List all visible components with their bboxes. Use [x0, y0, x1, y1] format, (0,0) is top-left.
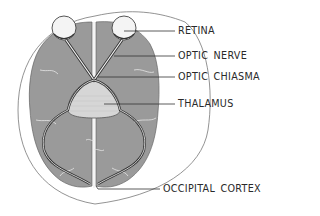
label-retina: RETINA: [178, 26, 215, 36]
left-eye: [52, 16, 76, 40]
label-optic-nerve: OPTIC NERVE: [178, 51, 247, 61]
label-thalamus: THALAMUS: [178, 99, 234, 109]
label-optic-chiasma: OPTIC CHIASMA: [178, 72, 260, 82]
label-occipital-cortex: OCCIPITAL CORTEX: [163, 184, 261, 194]
right-eye: [112, 16, 136, 40]
